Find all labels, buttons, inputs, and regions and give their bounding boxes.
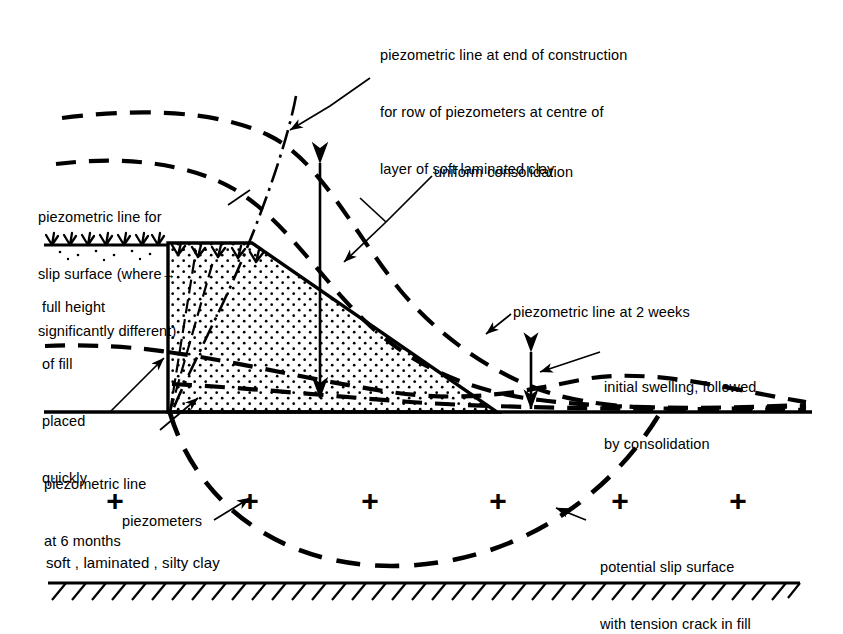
label-uniform-consolidation: uniform consolidation <box>434 163 573 182</box>
inline-right-arrow-icon: → <box>162 266 177 282</box>
label-initial-swelling: initial swelling, followed by consolidat… <box>604 340 757 492</box>
piezometer-marker-3: + <box>361 484 379 517</box>
piezometer-marker-4: + <box>489 484 507 517</box>
label-soil-description: soft , laminated , silty clay <box>46 553 220 572</box>
figure-canvas: ++++++ piezometric line at end of constr… <box>0 0 843 634</box>
piezometer-marker-2: + <box>241 484 259 517</box>
label-end-of-construction: piezometric line at end of construction … <box>380 8 627 217</box>
label-piezometers: piezometers <box>122 512 202 531</box>
label-potential-slip-surface: potential slip surface with tension crac… <box>600 520 751 634</box>
label-2-weeks: piezometric line at 2 weeks <box>513 303 690 322</box>
